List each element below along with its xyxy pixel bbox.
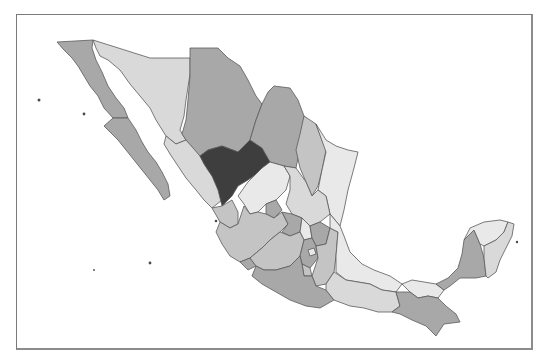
mexico-choropleth-map: Baja CaliforniaBaja California SurSonora… bbox=[0, 0, 550, 360]
island-revillagigedo-1 bbox=[149, 262, 152, 265]
state-baja-california-sur[interactable]: Baja California Sur bbox=[104, 118, 170, 200]
island-cozumel bbox=[516, 241, 518, 243]
island-isla-guadalupe bbox=[38, 99, 41, 102]
state-distrito-federal[interactable]: Distrito Federal bbox=[308, 248, 316, 256]
island-revillagigedo-2 bbox=[93, 269, 95, 271]
island-isla-cedros bbox=[83, 113, 86, 116]
state-chiapas[interactable]: Chiapas bbox=[392, 292, 460, 336]
island-islas-marias bbox=[215, 220, 218, 223]
state-regions: Baja CaliforniaBaja California SurSonora… bbox=[57, 40, 514, 336]
